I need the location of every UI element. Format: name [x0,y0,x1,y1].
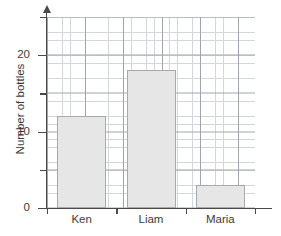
bar-ken [57,116,106,208]
y-axis-arrow-icon [43,5,51,13]
x-axis-line [46,208,272,209]
bar-chart: 01020 KenLiamMaria Number of bottles [0,0,281,236]
y-axis-line [46,12,47,209]
plot-area [47,17,255,208]
bar-maria [196,185,245,208]
x-label-liam: Liam [116,214,185,226]
x-label-maria: Maria [186,214,255,226]
y-axis-title: Number of bottles [14,34,26,184]
x-tick-3 [255,208,256,214]
y-tick-15 [40,93,47,94]
x-label-ken: Ken [47,214,116,226]
y-tick-label-0: 0 [0,202,30,214]
y-tick-25 [40,17,47,18]
y-tick-10 [38,132,47,133]
bar-liam [127,70,176,208]
y-tick-20 [38,55,47,56]
y-tick-0 [38,208,47,209]
bars-container [47,17,255,208]
y-tick-5 [40,170,47,171]
